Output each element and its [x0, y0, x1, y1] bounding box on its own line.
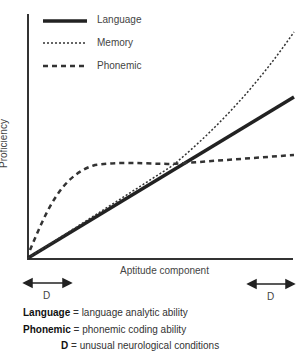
right-d-arrow-icon	[248, 280, 294, 288]
series-phonemic	[30, 155, 294, 250]
legend-phonemic-label: Phonemic	[97, 60, 141, 71]
definition-language: Language = language analytic ability	[23, 307, 188, 318]
x-axis-label: Aptitude component	[120, 265, 209, 276]
legend-language-label: Language	[97, 14, 142, 25]
legend-memory-label: Memory	[97, 37, 133, 48]
series-memory	[28, 32, 294, 258]
left-d-arrow-icon	[24, 279, 71, 287]
y-axis-label: Proficiency	[0, 119, 9, 168]
series-language	[28, 97, 294, 258]
left-d-label: D	[43, 290, 50, 301]
definition-d: D = unusual neurological conditions	[61, 340, 219, 351]
right-d-label: D	[267, 291, 274, 302]
definition-phonemic: Phonemic = phonemic coding ability	[23, 324, 186, 335]
